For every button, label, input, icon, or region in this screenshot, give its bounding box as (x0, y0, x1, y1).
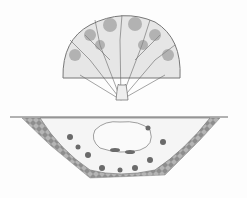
root-ball (93, 122, 151, 152)
tree-illustration (0, 0, 247, 198)
tree-drawing (0, 0, 247, 198)
trunk (116, 84, 128, 100)
